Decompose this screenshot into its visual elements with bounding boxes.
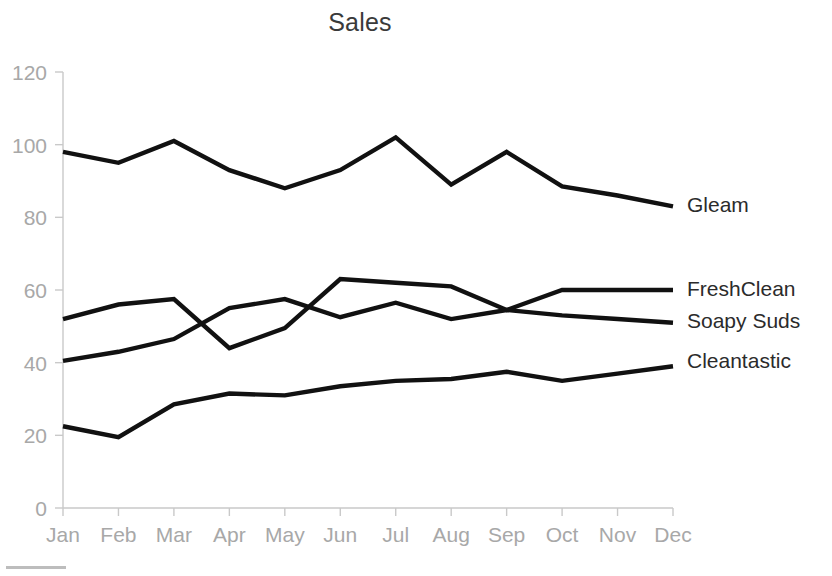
x-axis-tick-group: JanFebMarAprMayJunJulAugSepOctNovDec	[46, 508, 692, 546]
series-line-cleantastic	[63, 366, 673, 437]
series-label-freshclean: FreshClean	[687, 277, 796, 300]
x-tick-label: Jun	[323, 523, 357, 546]
x-tick-label: Jan	[46, 523, 80, 546]
x-tick-label: May	[265, 523, 305, 546]
x-tick-label: Jul	[382, 523, 409, 546]
chart-plot-area: 020406080100120 JanFebMarAprMayJunJulAug…	[0, 0, 832, 576]
series-line-freshclean	[63, 279, 673, 348]
bottom-rule	[6, 566, 66, 569]
y-axis-tick-group: 020406080100120	[12, 61, 63, 520]
x-tick-label: Sep	[488, 523, 525, 546]
y-tick-label: 40	[24, 352, 47, 375]
x-tick-label: Apr	[213, 523, 246, 546]
series-label-cleantastic: Cleantastic	[687, 349, 791, 372]
series-label-soapy-suds: Soapy Suds	[687, 309, 800, 332]
x-tick-label: Nov	[599, 523, 637, 546]
series-line-soapy-suds	[63, 299, 673, 361]
y-tick-label: 80	[24, 206, 47, 229]
y-tick-label: 60	[24, 279, 47, 302]
series-line-group	[63, 137, 673, 437]
x-tick-label: Oct	[546, 523, 579, 546]
x-tick-label: Mar	[156, 523, 192, 546]
sales-line-chart: Sales 020406080100120 JanFebMarAprMayJun…	[0, 0, 832, 576]
x-tick-label: Aug	[432, 523, 469, 546]
y-tick-label: 100	[12, 134, 47, 157]
y-tick-label: 20	[24, 424, 47, 447]
series-label-group: GleamFreshCleanSoapy SudsCleantastic	[687, 193, 800, 372]
y-tick-label: 0	[35, 497, 47, 520]
y-tick-label: 120	[12, 61, 47, 84]
series-label-gleam: Gleam	[687, 193, 749, 216]
series-line-gleam	[63, 137, 673, 206]
x-tick-label: Feb	[100, 523, 136, 546]
x-tick-label: Dec	[654, 523, 691, 546]
